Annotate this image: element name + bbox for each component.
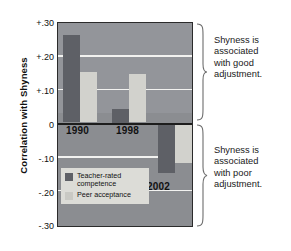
x-category-label-1998: 1998 — [116, 125, 139, 136]
y-tick-label: -.10 — [20, 155, 54, 163]
y-tick-label: 0 — [20, 121, 54, 129]
y-tick-label: -.30 — [20, 222, 54, 230]
bar-1990-peer-acceptance — [80, 72, 97, 122]
annotation-positive: Shyness is associated with good adjustme… — [214, 35, 290, 81]
legend-item-teacher-rated-competence: Teacher-ratedcompetence — [65, 172, 145, 188]
legend-label-teacher-line2: competence — [77, 179, 116, 188]
bar-2002-peer-acceptance — [175, 123, 192, 163]
brace-negative-region — [196, 124, 208, 227]
chart-legend: Teacher-ratedcompetence Peer acceptance — [61, 168, 149, 204]
y-tick-label: -.20 — [20, 189, 54, 197]
bar-1998-teacher-rated-competence — [112, 109, 129, 123]
y-tick-label: +.20 — [20, 53, 54, 61]
x-category-label-2002: 2002 — [147, 181, 170, 192]
legend-item-peer-acceptance: Peer acceptance — [65, 191, 145, 200]
bar-1990-teacher-rated-competence — [63, 35, 80, 122]
legend-label-teacher: Teacher-ratedcompetence — [77, 172, 121, 188]
bar-1998-peer-acceptance — [129, 74, 146, 123]
y-axis-tick-labels: +.30 +.20 +.10 0 -.10 -.20 -.30 — [20, 0, 54, 251]
chart-figure: Correlation with Shyness +.30 +.20 +.10 … — [0, 0, 291, 251]
brace-positive-region — [196, 23, 208, 121]
x-category-label-1990: 1990 — [66, 125, 89, 136]
y-tick-label: +.30 — [20, 19, 54, 27]
legend-swatch-icon-peer — [65, 192, 73, 200]
legend-label-peer: Peer acceptance — [77, 191, 131, 199]
bar-2002-teacher-rated-competence — [158, 123, 175, 173]
annotation-negative: Shyness is associated with poor adjustme… — [214, 145, 290, 191]
y-tick-label: +.10 — [20, 87, 54, 95]
legend-swatch-icon-teacher — [65, 173, 73, 181]
